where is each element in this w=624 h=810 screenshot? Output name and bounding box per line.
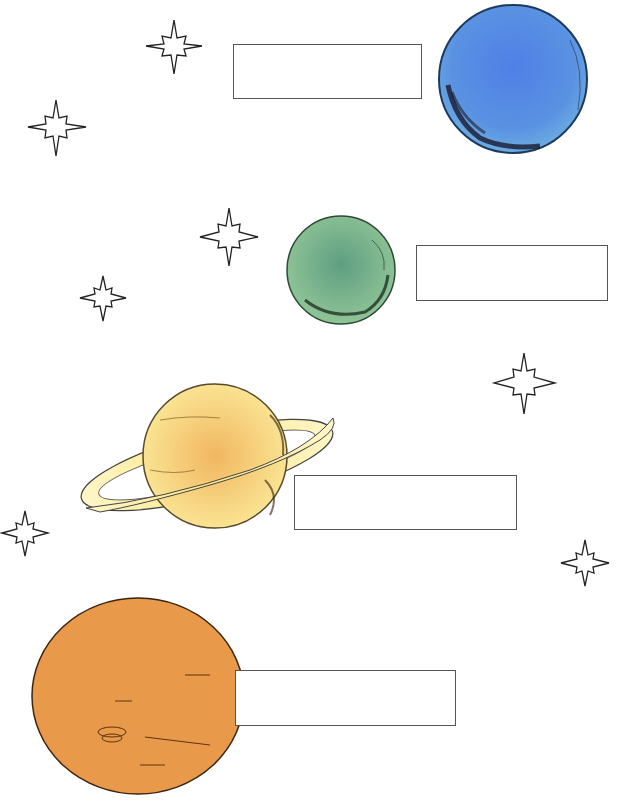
star-icon: [2, 511, 48, 556]
star-icon: [80, 276, 126, 321]
star-icon: [28, 100, 86, 156]
star-icon: [561, 540, 609, 586]
label-box-ringed-yellow-planet[interactable]: [294, 475, 517, 530]
label-box-green-planet[interactable]: [416, 245, 608, 301]
label-box-blue-planet[interactable]: [233, 44, 422, 99]
star-icon: [146, 20, 202, 74]
blue-planet: [439, 5, 587, 153]
green-planet: [287, 216, 395, 324]
star-icon: [494, 353, 555, 414]
label-box-orange-planet[interactable]: [235, 670, 456, 726]
orange-planet: [32, 598, 244, 794]
star-icon: [200, 208, 258, 266]
